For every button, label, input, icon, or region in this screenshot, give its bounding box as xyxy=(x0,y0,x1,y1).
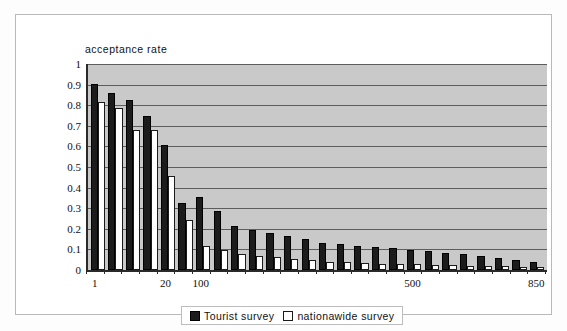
x-axis-tick-mark xyxy=(545,270,546,274)
bar-tourist-survey xyxy=(266,233,273,270)
y-axis-tick-label: 1 xyxy=(21,58,81,70)
x-axis-tick-mark xyxy=(386,270,387,274)
bar-group xyxy=(405,64,423,270)
x-axis-tick-labels: 120100500850 xyxy=(86,277,545,295)
bar-nationawide-survey xyxy=(361,263,368,270)
bar-tourist-survey xyxy=(108,93,115,270)
bar-group xyxy=(142,64,160,270)
bar-group xyxy=(107,64,125,270)
bar-tourist-survey xyxy=(284,236,291,270)
y-axis-tick-label: 0 xyxy=(21,264,81,276)
bar-nationawide-survey xyxy=(238,254,245,270)
bar-tourist-survey xyxy=(495,258,502,270)
x-axis-tick-mark xyxy=(492,270,493,274)
bar-group xyxy=(89,64,107,270)
bar-group xyxy=(300,64,318,270)
bar-tourist-survey xyxy=(425,251,432,270)
bar-tourist-survey xyxy=(178,203,185,270)
bar-tourist-survey xyxy=(477,256,484,270)
plot-area xyxy=(86,64,547,272)
x-axis-tick-label: 850 xyxy=(528,277,545,289)
x-axis-tick-mark xyxy=(192,270,193,274)
x-axis-tick-mark xyxy=(457,270,458,274)
y-axis-tick-label: 0.5 xyxy=(21,161,81,173)
bar-tourist-survey xyxy=(214,211,221,270)
x-axis-tick-mark xyxy=(421,270,422,274)
bar-nationawide-survey xyxy=(291,259,298,270)
x-axis-tick-mark xyxy=(316,270,317,274)
bar-nationawide-survey xyxy=(326,262,333,270)
bar-nationawide-survey xyxy=(344,262,351,270)
bar-tourist-survey xyxy=(319,243,326,270)
bar-group xyxy=(265,64,283,270)
bar-groups xyxy=(88,64,547,270)
x-axis-tick-mark xyxy=(227,270,228,274)
bar-group xyxy=(159,64,177,270)
legend-entry: nationawide survey xyxy=(283,310,394,322)
x-axis-tick-mark xyxy=(210,270,211,274)
bar-tourist-survey xyxy=(389,248,396,270)
y-axis-tick-labels: 10.90.80.70.60.50.40.30.20.10 xyxy=(18,64,81,270)
bar-tourist-survey xyxy=(460,254,467,270)
legend-label: Tourist survey xyxy=(204,310,274,322)
x-axis-tick-mark xyxy=(157,270,158,274)
x-axis-tick-mark xyxy=(527,270,528,274)
bar-nationawide-survey xyxy=(151,130,158,270)
filled-square-icon xyxy=(190,311,200,321)
y-axis-tick-label: 0.3 xyxy=(21,202,81,214)
bar-tourist-survey xyxy=(337,244,344,270)
bar-nationawide-survey xyxy=(274,257,281,270)
x-axis-tick-mark xyxy=(439,270,440,274)
bar-tourist-survey xyxy=(231,226,238,270)
x-axis-tick-mark xyxy=(245,270,246,274)
bar-group xyxy=(458,64,476,270)
y-axis-tick-label: 0.1 xyxy=(21,243,81,255)
x-axis-tick-label: 100 xyxy=(193,277,210,289)
x-axis-tick-label: 500 xyxy=(404,277,421,289)
bar-nationawide-survey xyxy=(133,130,140,270)
legend-entry: Tourist survey xyxy=(190,310,274,322)
chart-figure: acceptance rate 10.90.80.70.60.50.40.30.… xyxy=(0,0,567,331)
bar-nationawide-survey xyxy=(168,176,175,270)
x-axis-tick-marks xyxy=(86,270,545,275)
bar-nationawide-survey xyxy=(309,260,316,270)
bar-group xyxy=(511,64,529,270)
bar-group xyxy=(194,64,212,270)
bar-tourist-survey xyxy=(126,100,133,270)
bar-group xyxy=(493,64,511,270)
bar-tourist-survey xyxy=(407,250,414,270)
bar-tourist-survey xyxy=(143,116,150,270)
x-axis-tick-mark xyxy=(280,270,281,274)
x-axis-tick-mark xyxy=(351,270,352,274)
bar-group xyxy=(212,64,230,270)
open-square-icon xyxy=(283,311,293,321)
y-axis-tick-label: 0.8 xyxy=(21,99,81,111)
bar-tourist-survey xyxy=(442,253,449,271)
bar-group xyxy=(230,64,248,270)
bar-tourist-survey xyxy=(354,246,361,270)
chart-legend: Tourist surveynationawide survey xyxy=(181,306,403,325)
bar-nationawide-survey xyxy=(221,250,228,270)
x-axis-tick-mark xyxy=(121,270,122,274)
x-axis-tick-mark xyxy=(174,270,175,274)
bar-group xyxy=(370,64,388,270)
x-axis-tick-mark xyxy=(510,270,511,274)
bar-group xyxy=(353,64,371,270)
bar-tourist-survey xyxy=(161,145,168,270)
x-axis-tick-label: 1 xyxy=(92,277,98,289)
x-axis-tick-mark xyxy=(263,270,264,274)
figure-frame: acceptance rate 10.90.80.70.60.50.40.30.… xyxy=(15,14,552,315)
bar-group xyxy=(177,64,195,270)
legend-label: nationawide survey xyxy=(297,310,394,322)
x-axis-tick-mark xyxy=(474,270,475,274)
bar-group xyxy=(124,64,142,270)
bar-group xyxy=(441,64,459,270)
y-axis-tick-label: 0.2 xyxy=(21,223,81,235)
y-axis-tick-label: 0.6 xyxy=(21,140,81,152)
bar-tourist-survey xyxy=(530,262,537,270)
bar-nationawide-survey xyxy=(186,220,193,270)
bar-tourist-survey xyxy=(302,239,309,270)
bar-group xyxy=(247,64,265,270)
y-axis-tick-label: 0.7 xyxy=(21,120,81,132)
bar-tourist-survey xyxy=(196,197,203,270)
